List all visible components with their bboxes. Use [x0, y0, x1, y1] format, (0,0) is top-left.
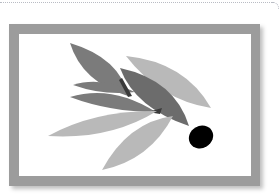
olive-fruit: [185, 121, 218, 153]
olive-branch-illustration: [19, 34, 251, 176]
picture-canvas: [19, 34, 251, 176]
dotted-top-border: [0, 2, 274, 3]
picture-frame: [9, 24, 260, 186]
dotted-border-corner: [272, 2, 279, 9]
